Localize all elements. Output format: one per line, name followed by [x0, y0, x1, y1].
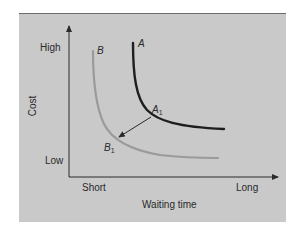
y-axis-high-label: High [40, 42, 61, 53]
x-axis-short-label: Short [82, 182, 106, 193]
y-axis-title: Cost [27, 95, 38, 116]
curve-b-label: B [97, 45, 104, 56]
cost-vs-waiting-time-diagram: High Low Cost Short Long Waiting time A … [0, 0, 301, 235]
y-axis-low-label: Low [45, 155, 64, 166]
x-axis-title: Waiting time [142, 199, 197, 210]
x-axis-long-label: Long [236, 182, 258, 193]
curve-a-label: A [137, 38, 145, 49]
